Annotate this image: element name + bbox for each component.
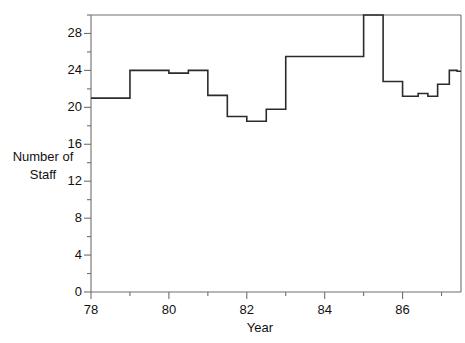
y-axis-title-line-0: Number of [2, 148, 84, 166]
y-tick-label: 20 [58, 100, 82, 113]
x-axis-ticks [91, 292, 442, 299]
y-tick-label: 8 [58, 211, 82, 224]
y-axis-ticks [84, 15, 91, 292]
y-tick-label: 4 [58, 248, 82, 261]
x-tick-label: 86 [388, 303, 418, 316]
y-tick-label: 0 [58, 285, 82, 298]
x-tick-label: 78 [76, 303, 106, 316]
y-tick-label: 28 [58, 26, 82, 39]
x-tick-label: 82 [232, 303, 262, 316]
chart-figure: 0481216202428 7880828486 Number ofStaff … [0, 0, 465, 343]
staff-step-line [91, 15, 461, 121]
x-tick-label: 80 [154, 303, 184, 316]
y-axis-title: Number ofStaff [2, 148, 84, 183]
x-tick-label: 84 [310, 303, 340, 316]
x-axis-title: Year [200, 320, 320, 335]
y-tick-label: 24 [58, 63, 82, 76]
plot-frame [91, 15, 461, 292]
y-axis-title-line-1: Staff [2, 166, 84, 184]
